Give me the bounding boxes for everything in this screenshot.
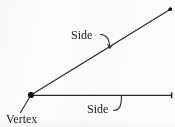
upper-ray-line: [31, 10, 170, 96]
upper-ray-endpoint-dot: [168, 7, 172, 11]
vertex-leader-line: [21, 97, 30, 112]
side-label-upper: Side: [71, 29, 92, 41]
angle-diagram-figure: Side Side Vertex: [0, 0, 175, 127]
vertex-point-dot: [28, 92, 34, 98]
side-lower-leader-line: [114, 96, 122, 110]
side-label-lower: Side: [87, 103, 108, 115]
vertex-label: Vertex: [6, 113, 37, 125]
